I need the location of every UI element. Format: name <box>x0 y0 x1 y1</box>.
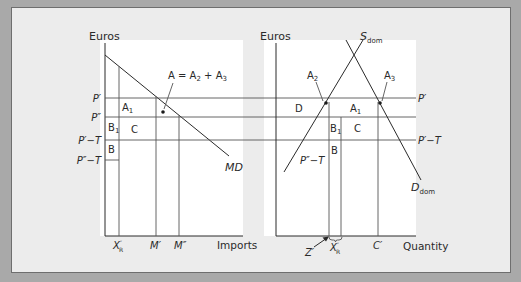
left-price-p1: P′ <box>93 93 102 104</box>
right-area-d: D <box>295 103 303 114</box>
right-inner-p2-minus-t: P″−T <box>300 155 325 166</box>
left-area-c: C <box>131 124 138 135</box>
left-y-axis-label: Euros <box>89 30 120 43</box>
right-area-c: C <box>354 123 361 134</box>
right-price-p1-minus-t: P′−T <box>418 135 442 146</box>
right-xr-label: X″R <box>329 241 340 255</box>
left-price-p1-minus-t: P′−T <box>78 135 102 146</box>
left-m1-label: M′ <box>150 240 162 251</box>
right-plot-area <box>264 40 416 236</box>
right-x-axis-label: Quantity <box>403 240 448 252</box>
left-m2-label: M″ <box>174 240 187 251</box>
a3-dot <box>378 101 382 105</box>
left-area-b: B <box>108 144 115 155</box>
right-area-b: B <box>331 145 338 156</box>
z-label: Z′ <box>304 247 315 258</box>
right-y-axis-label: Euros <box>260 30 291 43</box>
right-price-p1: P′ <box>418 93 427 104</box>
a2-dot <box>324 101 328 105</box>
left-price-p2: P″ <box>91 112 101 123</box>
right-c1-label: C′ <box>373 240 383 251</box>
left-xr-label: X″R <box>112 239 123 253</box>
trade-diagram: Euros P′ P″ P′−T P″−T A1 B1 C B A = A2 +… <box>0 0 521 282</box>
annotation-dot <box>161 110 165 114</box>
md-label: MD <box>225 161 243 174</box>
left-x-axis-label: Imports <box>217 239 257 251</box>
left-price-p2-minus-t: P″−T <box>77 155 102 166</box>
